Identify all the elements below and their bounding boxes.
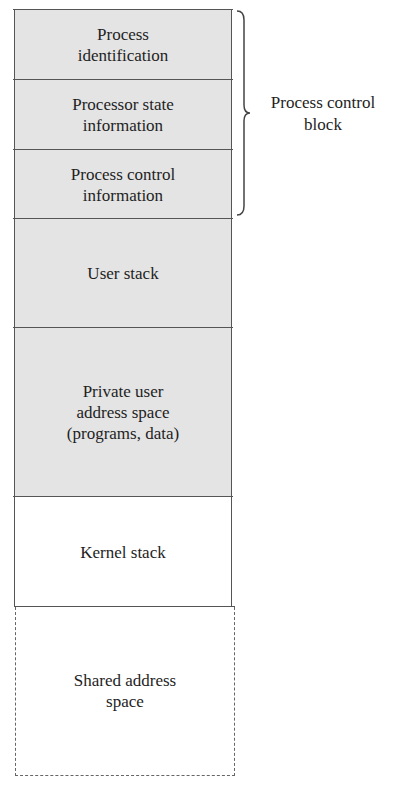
divider [13,218,233,219]
segment-label: Kernel stack [80,542,165,563]
segment-kernel-stack: Kernel stack [14,497,232,607]
segment-label: Process control information [71,164,175,206]
segment-label: Shared address space [74,670,176,712]
curly-brace-icon [234,10,258,216]
segment-processor-state-information: Processor state information [14,80,232,150]
segment-label: Processor state information [72,94,174,136]
divider [14,606,235,607]
divider [13,79,233,80]
divider [13,327,233,328]
segment-label: Private user address space (programs, da… [67,381,179,444]
process-control-block-label: Process control block [258,92,388,136]
segment-label: Process identification [78,24,169,66]
divider-top [13,9,233,10]
segment-label: User stack [87,263,158,284]
divider [13,496,233,497]
divider [13,149,233,150]
segment-private-user-address-space: Private user address space (programs, da… [14,328,232,497]
segment-user-stack: User stack [14,219,232,328]
segment-process-control-information: Process control information [14,150,232,219]
segment-process-identification: Process identification [14,10,232,80]
segment-shared-address-space: Shared address space [15,607,235,776]
